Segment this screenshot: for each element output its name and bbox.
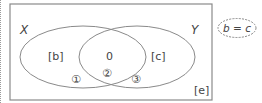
universe-e-label: [e] [194, 84, 209, 97]
condition-text: b = c [223, 22, 251, 34]
region-b-text: [b] [48, 50, 64, 63]
venn-diagram: X Y [b] 0 [c] [e] ① ② ③ b = c [0, 0, 262, 103]
intersection-label: 0 [106, 50, 113, 63]
marker-1: ① [71, 73, 81, 86]
marker-3: ③ [131, 73, 141, 86]
region-b-label: [b] [48, 50, 64, 63]
set-y-label: Y [191, 23, 200, 37]
set-x-ellipse [20, 26, 146, 88]
set-x-label: X [19, 23, 29, 37]
marker-2: ② [102, 67, 112, 80]
region-c-label: [c] [151, 50, 166, 63]
